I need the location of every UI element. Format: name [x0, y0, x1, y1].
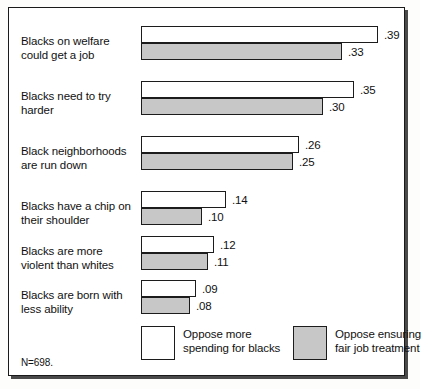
- legend-label-line1: Oppose more: [183, 328, 252, 340]
- legend-item-oppose-spending: Oppose more spending for blacks: [141, 324, 291, 364]
- bar-value-label: .12: [220, 239, 235, 251]
- bar-oppose-fair-job: [141, 153, 293, 170]
- bar-value-label: .10: [208, 211, 223, 223]
- chart-legend: Oppose more spending for blacks Oppose e…: [141, 324, 401, 366]
- bar-oppose-fair-job: [141, 297, 190, 314]
- chart-row: Blacks need to tryharder.35.30: [9, 81, 406, 119]
- bar-value-label: .14: [232, 194, 247, 206]
- legend-swatch-white-icon: [141, 326, 175, 360]
- category-label: Blacks have a chip ontheir shoulder: [21, 200, 139, 227]
- category-label-line: Blacks have a chip on: [21, 200, 131, 212]
- chart-frame: Blacks on welfarecould get a job.39.33Bl…: [8, 7, 405, 376]
- category-label-line: violent than whites: [21, 259, 114, 271]
- bar-oppose-fair-job: [141, 98, 323, 115]
- bar-oppose-spending: [141, 236, 214, 253]
- legend-label-line2: spending for blacks: [183, 342, 280, 354]
- sample-size-note: N=698.: [21, 357, 53, 368]
- category-label-line: could get a job: [21, 49, 94, 61]
- category-label: Blacks on welfarecould get a job: [21, 35, 139, 62]
- legend-label-oppose-spending: Oppose more spending for blacks: [183, 327, 280, 355]
- category-label: Blacks are born withless ability: [21, 289, 139, 316]
- chart-row: Blacks are born withless ability.09.08: [9, 280, 406, 318]
- bar-oppose-fair-job: [141, 208, 202, 225]
- category-label-line: Blacks on welfare: [21, 35, 109, 47]
- bar-oppose-spending: [141, 280, 196, 297]
- category-label-line: Blacks are more: [21, 245, 103, 257]
- bar-value-label: .11: [214, 256, 229, 268]
- chart-row: Black neighborhoodsare run down.26.25: [9, 136, 406, 174]
- category-label-line: are run down: [21, 159, 87, 171]
- legend-label-line2: fair job treatment: [335, 342, 420, 354]
- category-label-line: Black neighborhoods: [21, 145, 127, 157]
- bar-value-label: .26: [305, 139, 320, 151]
- category-label: Blacks are moreviolent than whites: [21, 245, 139, 272]
- legend-label-oppose-fair-job: Oppose ensuring fair job treatment: [335, 327, 421, 355]
- bar-value-label: .08: [196, 300, 211, 312]
- bar-oppose-spending: [141, 81, 354, 98]
- legend-item-oppose-fair-job: Oppose ensuring fair job treatment: [293, 324, 426, 364]
- bar-oppose-spending: [141, 191, 226, 208]
- bar-value-label: .39: [384, 29, 399, 41]
- category-label: Blacks need to tryharder: [21, 90, 139, 117]
- bar-value-label: .25: [299, 156, 314, 168]
- bar-oppose-spending: [141, 26, 378, 43]
- plot-area: Blacks on welfarecould get a job.39.33Bl…: [9, 8, 406, 377]
- category-label-line: harder: [21, 104, 54, 116]
- chart-row: Blacks have a chip ontheir shoulder.14.1…: [9, 191, 406, 229]
- chart-row: Blacks on welfarecould get a job.39.33: [9, 26, 406, 64]
- bar-value-label: .35: [360, 84, 375, 96]
- bar-oppose-fair-job: [141, 43, 342, 60]
- bar-oppose-spending: [141, 136, 299, 153]
- bar-value-label: .33: [348, 46, 363, 58]
- legend-swatch-gray-icon: [293, 326, 327, 360]
- category-label-line: less ability: [21, 303, 73, 315]
- bar-value-label: .30: [329, 101, 344, 113]
- bar-value-label: .09: [202, 283, 217, 295]
- category-label-line: their shoulder: [21, 214, 89, 226]
- category-label: Black neighborhoodsare run down: [21, 145, 139, 172]
- legend-label-line1: Oppose ensuring: [335, 328, 421, 340]
- chart-row: Blacks are moreviolent than whites.12.11: [9, 236, 406, 274]
- category-label-line: Blacks need to try: [21, 90, 111, 102]
- bar-oppose-fair-job: [141, 253, 208, 270]
- category-label-line: Blacks are born with: [21, 289, 123, 301]
